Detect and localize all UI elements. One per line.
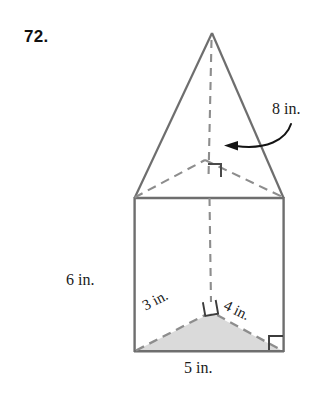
pyramid-base-hidden-edge-right <box>205 160 284 198</box>
pyramid-altitude-dashed-line <box>209 40 212 178</box>
prism-height-label: 6 in. <box>66 272 94 288</box>
prism-back-vertical-hidden-edge <box>210 198 212 302</box>
annotation-curved-arrow <box>236 124 291 147</box>
pyramid-left-lateral-edge <box>135 33 212 198</box>
slant-height-label: 8 in. <box>272 101 300 117</box>
pyramid-base-hidden-edge-left <box>135 160 205 198</box>
shaded-base-triangle <box>135 313 283 351</box>
base-hypotenuse-label: 5 in. <box>184 360 212 376</box>
solid-figure-drawing <box>0 0 324 397</box>
geometry-figure-container: 72. 8 in. 6 in. 3 in. 4 in. 5 in. <box>0 0 324 397</box>
annotation-arrowhead <box>224 141 238 151</box>
problem-number-label: 72. <box>24 28 49 45</box>
